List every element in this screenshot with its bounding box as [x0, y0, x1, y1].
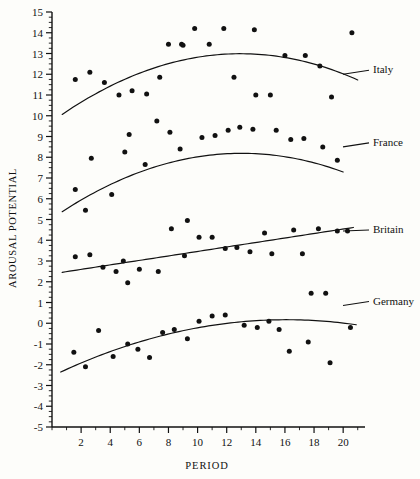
data-point	[137, 267, 142, 272]
data-point	[253, 93, 258, 98]
data-point	[306, 339, 311, 344]
data-point	[231, 75, 236, 80]
trend-line-france	[62, 153, 343, 211]
series-germany	[61, 291, 357, 372]
data-point	[125, 280, 130, 285]
y-tick-label: -1	[34, 338, 43, 350]
y-tick-label: 7	[38, 172, 44, 184]
data-point	[328, 360, 333, 365]
data-series-layer	[61, 26, 358, 372]
y-tick-label: -5	[34, 421, 44, 433]
data-point	[223, 312, 228, 317]
y-tick-label: 9	[38, 131, 44, 143]
data-point	[181, 43, 186, 48]
data-point	[223, 246, 228, 251]
data-point	[122, 150, 127, 155]
data-point	[178, 146, 183, 151]
data-point	[147, 355, 152, 360]
y-tick-label: 11	[32, 89, 43, 101]
data-point	[255, 325, 260, 330]
data-point	[73, 254, 78, 259]
data-point	[125, 342, 130, 347]
y-tick-label: 12	[32, 68, 43, 80]
data-point	[116, 93, 121, 98]
data-point	[269, 251, 274, 256]
series-label-italy: Italy	[373, 63, 394, 75]
data-point	[185, 218, 190, 223]
data-point	[96, 328, 101, 333]
y-tick-label: 3	[38, 255, 44, 267]
y-tick-label: -2	[34, 359, 43, 371]
data-point	[169, 226, 174, 231]
data-point	[87, 70, 92, 75]
x-tick-label: 2	[78, 436, 84, 448]
y-axis-title: AROUSAL POTENTIAL	[7, 168, 18, 288]
series-britain	[62, 226, 353, 285]
y-tick-label: 10	[32, 110, 44, 122]
y-tick-label: 2	[38, 276, 44, 288]
data-point	[127, 132, 132, 137]
data-point	[277, 327, 282, 332]
x-tick-label: 4	[107, 436, 113, 448]
y-axis: -5-4-3-2-10123456789101112131415	[32, 6, 52, 433]
x-tick-label: 18	[309, 436, 321, 448]
x-tick-label: 12	[221, 436, 232, 448]
data-point	[274, 128, 279, 133]
data-point	[316, 226, 321, 231]
data-point	[303, 53, 308, 58]
data-point	[144, 91, 149, 96]
trend-line-germany	[61, 320, 357, 372]
data-point	[282, 53, 287, 58]
y-tick-label: 14	[32, 27, 44, 39]
data-point	[102, 80, 107, 85]
y-tick-label: 6	[38, 193, 44, 205]
x-tick-label: 10	[192, 436, 204, 448]
series-label-britain: Britain	[373, 223, 404, 235]
data-point	[73, 187, 78, 192]
data-point	[197, 319, 202, 324]
data-point	[335, 228, 340, 233]
data-point	[237, 125, 242, 130]
y-tick-label: 4	[38, 234, 44, 246]
data-point	[73, 77, 78, 82]
chart-canvas: -5-4-3-2-10123456789101112131415 2468101…	[0, 0, 420, 479]
data-point	[197, 235, 202, 240]
data-point	[199, 135, 204, 140]
x-tick-label: 8	[166, 436, 172, 448]
data-point	[71, 350, 76, 355]
data-point	[320, 144, 325, 149]
data-point	[130, 88, 135, 93]
data-point	[135, 347, 140, 352]
series-france	[62, 118, 343, 223]
data-point	[210, 235, 215, 240]
data-point	[266, 319, 271, 324]
data-point	[207, 42, 212, 47]
data-point	[185, 336, 190, 341]
data-point	[221, 26, 226, 31]
x-tick-label: 20	[338, 436, 350, 448]
data-point	[348, 325, 353, 330]
data-point	[317, 63, 322, 68]
data-point	[154, 118, 159, 123]
data-point	[300, 251, 305, 256]
data-point	[287, 349, 292, 354]
data-point	[89, 156, 94, 161]
series-labels-layer: ItalyFranceBritainGermany	[343, 63, 414, 306]
data-point	[167, 130, 172, 135]
data-point	[288, 137, 293, 142]
data-point	[323, 291, 328, 296]
series-italy	[62, 26, 358, 114]
data-point	[329, 95, 334, 100]
data-point	[268, 93, 273, 98]
data-point	[226, 128, 231, 133]
data-point	[157, 75, 162, 80]
data-point	[192, 26, 197, 31]
label-leader-france	[343, 143, 369, 147]
y-tick-label: 8	[38, 151, 44, 163]
arousal-potential-scatter-chart: -5-4-3-2-10123456789101112131415 2468101…	[0, 0, 420, 479]
x-tick-label: 6	[137, 436, 143, 448]
data-point	[250, 127, 255, 132]
data-point	[262, 230, 267, 235]
data-point	[143, 162, 148, 167]
data-point	[83, 208, 88, 213]
